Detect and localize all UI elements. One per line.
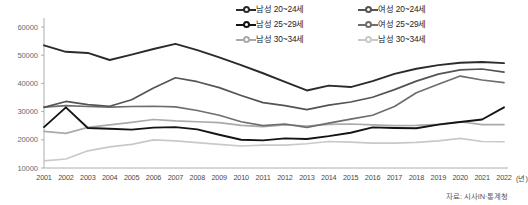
series-line — [44, 120, 504, 134]
legend-item-female-20-24[interactable]: 여성 20~24세 — [358, 2, 480, 17]
legend-marker-icon — [236, 34, 256, 45]
x-axis-tick-label: 2022 — [491, 173, 517, 182]
legend-label: 여성 25~29세 — [378, 19, 426, 30]
legend-marker-icon — [358, 34, 378, 45]
y-axis-tick-label: 40000 — [4, 79, 38, 88]
legend-item-male-25-29[interactable]: 남성 25~29세 — [236, 17, 358, 32]
legend-item-male-30-34[interactable]: 남성 30~34세 — [236, 32, 358, 47]
legend-marker-icon — [358, 4, 378, 15]
y-axis-tick-label: 20000 — [4, 135, 38, 144]
chart-legend: 남성 20~24세 여성 20~24세 남성 25~29세 여성 25~29세 — [236, 2, 486, 46]
legend-label: 남성 20~24세 — [256, 4, 304, 15]
y-axis-tick-label: 50000 — [4, 51, 38, 60]
source-note: 자료: 시사IN·통계청 — [446, 190, 508, 201]
series-line — [44, 44, 504, 91]
legend-label: 남성 25~29세 — [256, 19, 304, 30]
legend-item-female-25-29[interactable]: 여성 25~29세 — [358, 17, 480, 32]
legend-marker-icon — [358, 19, 378, 30]
series-line — [44, 138, 504, 161]
legend-label: 남성 30~34세 — [256, 34, 304, 45]
y-axis-tick-label: 30000 — [4, 107, 38, 116]
y-axis-tick-label: 10000 — [4, 164, 38, 173]
x-axis-unit: (년) — [516, 174, 528, 183]
legend-label: 여성 20~24세 — [378, 4, 426, 15]
legend-label: 남성 30~34세 — [378, 34, 426, 45]
legend-item-male-30-34-alt[interactable]: 남성 30~34세 — [358, 32, 480, 47]
series-line — [44, 76, 504, 127]
legend-marker-icon — [236, 4, 256, 15]
y-axis-tick-label: 60000 — [4, 23, 38, 32]
legend-marker-icon — [236, 19, 256, 30]
legend-item-male-20-24[interactable]: 남성 20~24세 — [236, 2, 358, 17]
series-line — [44, 69, 504, 110]
